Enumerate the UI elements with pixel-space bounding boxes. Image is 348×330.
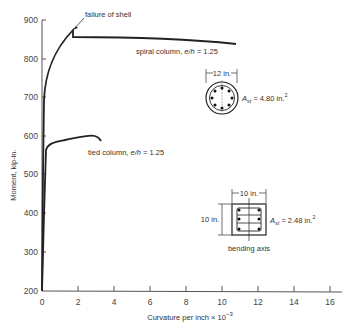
x-tick-2: 2 — [76, 297, 81, 307]
square-width-dimension: 10 in. — [240, 189, 258, 198]
x-tick-14: 14 — [289, 297, 299, 307]
failure-of-shell-label: failure of shell — [85, 10, 132, 19]
x-tick-8: 8 — [184, 297, 189, 307]
spiral-column-label: spiral column, e/h = 1.25 — [136, 47, 218, 56]
y-tick-500: 500 — [24, 169, 38, 179]
tied-steel-area: Ast = 2.48 in.2 — [269, 214, 316, 226]
y-tick-400: 400 — [24, 208, 38, 218]
axes — [42, 20, 342, 292]
x-tick-16: 16 — [325, 297, 335, 307]
tied-column-label: tied column, e/h = 1.25 — [88, 148, 164, 157]
y-axis-title: Moment, kip-in. — [9, 149, 18, 200]
x-axis-title: Curvature per inch × 10−3 — [147, 311, 233, 322]
spiral-column-curve — [42, 30, 236, 291]
tied-column-curve — [42, 135, 101, 291]
x-tick-4: 4 — [112, 297, 117, 307]
spiral-section-inset: 12 in. Ast = 4.80 in.2 — [206, 69, 288, 116]
square-height-dimension: 10 in. — [201, 215, 219, 224]
x-tick-10: 10 — [217, 297, 227, 307]
circle-dimension: 12 in. — [213, 69, 231, 78]
spiral-steel-area: Ast = 4.80 in.2 — [241, 92, 288, 104]
y-tick-600: 600 — [24, 131, 38, 141]
moment-curvature-chart: 900 800 700 600 500 400 300 200 0 2 4 6 … — [0, 0, 348, 330]
y-tick-900: 900 — [24, 15, 38, 25]
bending-axis-label: bending axis — [228, 244, 270, 253]
y-tick-800: 800 — [24, 54, 38, 64]
tied-section-inset: 10 in. 10 in. Ast = 2.48 in.2 bending ax… — [201, 189, 316, 253]
x-axis — [42, 291, 342, 292]
x-tick-0: 0 — [40, 297, 45, 307]
x-tick-12: 12 — [253, 297, 263, 307]
y-tick-700: 700 — [24, 92, 38, 102]
x-tick-6: 6 — [148, 297, 153, 307]
y-tick-200: 200 — [24, 286, 38, 296]
y-tick-300: 300 — [24, 247, 38, 257]
